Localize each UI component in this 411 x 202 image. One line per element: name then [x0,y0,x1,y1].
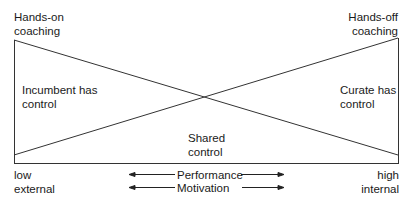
label-curate-has-control: Curate has control [340,83,396,111]
arrow-left-icon [129,173,135,177]
axis-label-performance: Performance [177,168,243,182]
label-shared-control: Shared control [188,131,225,159]
axis-label-low-external: low external [14,168,55,196]
arrow-left-icon [129,186,135,190]
label-hands-off-coaching: Hands-off coaching [348,10,398,38]
label-hands-on-coaching: Hands-on coaching [14,10,64,38]
arrow-right-icon [278,186,284,190]
axis-label-high-internal: high internal [361,168,399,196]
axis-label-motivation: Motivation [177,181,229,195]
label-incumbent-has-control: Incumbent has control [22,83,97,111]
arrow-right-icon [278,173,284,177]
